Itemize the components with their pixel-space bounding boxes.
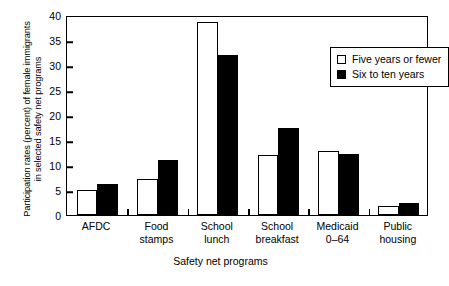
bar bbox=[339, 154, 360, 216]
x-axis-tick-mark bbox=[248, 209, 250, 215]
y-axis-tick-label: 5 bbox=[21, 186, 61, 197]
bar bbox=[278, 128, 299, 216]
bar-group bbox=[137, 15, 178, 215]
bar bbox=[77, 190, 98, 215]
y-axis-tick-label: 10 bbox=[21, 161, 61, 172]
filled-square-icon bbox=[337, 70, 346, 79]
x-axis-tick-mark bbox=[369, 209, 371, 215]
bar bbox=[399, 203, 420, 215]
bar-group bbox=[77, 15, 118, 215]
y-axis-tick-label: 30 bbox=[21, 61, 61, 72]
bar-group bbox=[197, 15, 238, 215]
bar bbox=[258, 155, 279, 215]
bar-group bbox=[258, 15, 299, 215]
y-axis-tick-label: 25 bbox=[21, 86, 61, 97]
bar bbox=[218, 55, 239, 215]
bar bbox=[378, 206, 399, 216]
open-square-icon bbox=[337, 55, 346, 64]
plot-area: Five years or fewer Six to ten years bbox=[66, 16, 428, 216]
x-axis-title: Safety net programs bbox=[0, 255, 441, 267]
x-axis-category-label: Public housing bbox=[358, 220, 438, 246]
bar bbox=[158, 160, 179, 215]
x-axis-tick-mark bbox=[188, 209, 190, 215]
y-axis-tick-label: 40 bbox=[21, 11, 61, 22]
y-axis-tick-label: 20 bbox=[21, 111, 61, 122]
legend-item-label: Five years or fewer bbox=[352, 54, 441, 65]
bar-group bbox=[378, 15, 419, 215]
x-axis-tick-mark bbox=[308, 209, 310, 215]
bar-group bbox=[318, 15, 359, 215]
y-axis-tick-label: 15 bbox=[21, 136, 61, 147]
bar bbox=[197, 22, 218, 216]
legend: Five years or fewer Six to ten years bbox=[330, 47, 449, 87]
legend-item-five-years-or-fewer: Five years or fewer bbox=[337, 52, 441, 67]
bar bbox=[137, 179, 158, 216]
bar bbox=[318, 151, 339, 216]
bar bbox=[97, 184, 118, 216]
x-axis-tick-mark bbox=[127, 209, 129, 215]
legend-item-label: Six to ten years bbox=[352, 69, 424, 80]
y-axis-tick-label: 0 bbox=[21, 211, 61, 222]
legend-item-six-to-ten-years: Six to ten years bbox=[337, 67, 441, 82]
y-axis-tick-label: 35 bbox=[21, 36, 61, 47]
